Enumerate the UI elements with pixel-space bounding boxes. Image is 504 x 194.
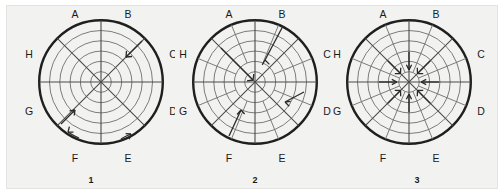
diagram-caption-2: 2 bbox=[171, 175, 339, 185]
compass-label-b: B bbox=[278, 8, 285, 20]
diagram-caption-1: 1 bbox=[7, 175, 175, 185]
compass-label-f: F bbox=[72, 152, 78, 164]
flow-arrowhead bbox=[68, 127, 74, 133]
compass-label-e: E bbox=[278, 152, 285, 164]
polar-plot-3-svg: A B C D E F G H bbox=[333, 6, 501, 166]
compass-label-h: H bbox=[179, 48, 187, 60]
compass-label-d: D bbox=[323, 105, 331, 117]
spoke-group-3-major bbox=[347, 20, 471, 144]
compass-label-c: C bbox=[477, 48, 485, 60]
spoke-group-2-major bbox=[193, 20, 317, 144]
flow-arrow bbox=[221, 48, 253, 80]
compass-label-g: G bbox=[333, 105, 341, 117]
compass-label-e: E bbox=[124, 152, 131, 164]
arrow-group-2 bbox=[221, 26, 304, 136]
flow-arrow bbox=[229, 110, 241, 136]
compass-label-b: B bbox=[432, 8, 439, 20]
compass-label-e: E bbox=[432, 152, 439, 164]
compass-label-g: G bbox=[25, 105, 33, 117]
compass-label-g: G bbox=[179, 105, 187, 117]
polar-diagram-1: A B C D E F G H 1 bbox=[7, 6, 175, 190]
compass-label-h: H bbox=[333, 48, 341, 60]
polar-plot-2-svg: A B C D E F G H bbox=[171, 6, 339, 166]
compass-label-d: D bbox=[477, 105, 485, 117]
compass-label-a: A bbox=[225, 8, 232, 20]
flow-arrow bbox=[126, 41, 142, 57]
spoke-group-1 bbox=[39, 20, 163, 144]
compass-label-c: C bbox=[323, 48, 331, 60]
polar-plot-1-svg: A B C D E F G H bbox=[7, 6, 175, 166]
figure-root: A B C D E F G H 1 bbox=[0, 0, 504, 194]
compass-label-b: B bbox=[124, 8, 131, 20]
compass-label-h: H bbox=[25, 48, 33, 60]
polar-diagram-2: A B C D E F G H 2 bbox=[171, 6, 339, 190]
diagram-caption-3: 3 bbox=[333, 175, 501, 185]
compass-label-f: F bbox=[380, 152, 386, 164]
figure-panel: A B C D E F G H 1 bbox=[6, 5, 498, 189]
compass-label-a: A bbox=[379, 8, 386, 20]
compass-label-a: A bbox=[71, 8, 78, 20]
compass-label-f: F bbox=[226, 152, 232, 164]
polar-diagram-3: A B C D E F G H 3 bbox=[333, 6, 501, 190]
